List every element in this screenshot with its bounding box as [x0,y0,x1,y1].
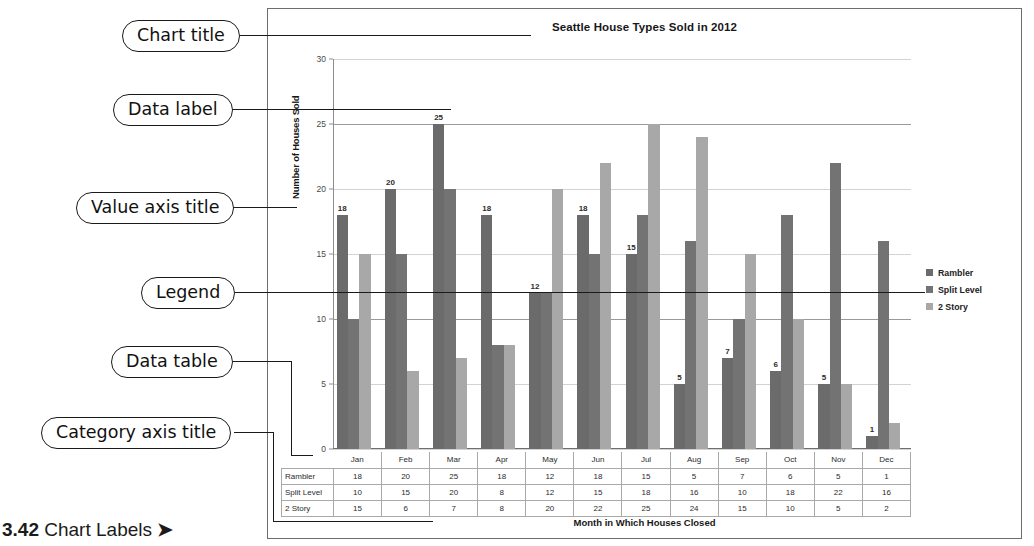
leader-category-axis-h1 [234,432,274,433]
bar [745,254,756,449]
data-table-row-header: Split Level [282,484,334,500]
callout-legend-label: Legend [156,284,220,302]
data-table: JanFebMarAprMayJunJulAugSepOctNovDecRamb… [281,452,911,517]
data-table-row-header: 2 Story [282,500,334,516]
leader-data-table-v [291,361,292,456]
data-table-column-header: Apr [478,452,526,468]
leader-chart-title [236,35,531,36]
category-axis-title: Month in Which Houses Closed [268,517,1021,528]
data-table-cell: 8 [478,500,526,516]
data-table-cell: 20 [430,484,478,500]
data-table-cell: 7 [430,500,478,516]
bar [878,241,889,449]
bar: 12 [529,293,540,449]
bar-group: 5 [815,59,863,449]
callout-category-axis-title: Category axis title [41,417,231,449]
data-table-cell: 25 [430,468,478,484]
figure-caption: 3.42 Chart Labels ➤ [2,518,172,541]
data-table-cell: 16 [670,484,718,500]
tick-label-15: 15 [317,249,326,259]
data-table-column-header: Dec [862,452,910,468]
data-table-cell: 18 [766,484,814,500]
data-label: 6 [774,360,778,369]
bar [456,358,467,449]
bar [648,124,659,449]
leader-data-label [229,109,451,110]
legend-item-2-story[interactable]: 2 Story [926,298,1016,315]
data-table-cell: 22 [814,484,862,500]
legend-item-label: 2 Story [938,302,968,312]
bar [541,293,552,449]
data-table-cell: 7 [718,468,766,484]
bar: 5 [674,384,685,449]
legend-swatch-icon [926,286,933,293]
data-table-column-header: May [526,452,574,468]
bar: 25 [433,124,444,449]
chart-legend: RamblerSplit Level2 Story [926,264,1016,315]
tick-label-5: 5 [321,379,326,389]
data-table-cell: 15 [574,484,622,500]
bar-group: 20 [381,59,429,449]
data-label: 12 [530,282,539,291]
data-table-cell: 15 [334,500,382,516]
bar [889,423,900,449]
data-table-cell: 12 [526,484,574,500]
data-label: 1 [870,425,874,434]
data-label: 18 [579,204,588,213]
data-table-cell: 5 [670,468,718,484]
leader-data-table-h1 [233,361,292,362]
callout-data-label-label: Data label [128,101,218,119]
data-table-cell: 15 [622,468,670,484]
data-table-cell: 20 [382,468,430,484]
tick-label-25: 25 [317,119,326,129]
bar-group: 18 [478,59,526,449]
data-table-column-header: Nov [814,452,862,468]
data-table-cell: 5 [814,500,862,516]
data-table-cell: 16 [862,484,910,500]
data-table-column-header: Feb [382,452,430,468]
data-table-cell: 2 [862,500,910,516]
callout-category-axis-title-label: Category axis title [56,424,216,442]
bar [504,345,515,449]
bar: 1 [866,436,877,449]
data-label: 25 [434,113,443,122]
tick-label-30: 30 [317,54,326,64]
data-table-cell: 18 [622,484,670,500]
data-table-column-header: Aug [670,452,718,468]
callout-data-table-label: Data table [126,353,218,371]
callout-data-table: Data table [111,346,233,378]
tick-label-10: 10 [317,314,326,324]
bar: 18 [337,215,348,449]
data-table-column-header: Sep [718,452,766,468]
data-table-row-header: Rambler [282,468,334,484]
bar [600,163,611,449]
callout-chart-title-label: Chart title [137,27,225,45]
value-axis-title: Number of Houses Sold [290,96,301,199]
bar: 18 [577,215,588,449]
caption-arrow-icon: ➤ [157,519,172,540]
data-table-column-header: Jan [334,452,382,468]
legend-item-split-level[interactable]: Split Level [926,281,1016,298]
data-table-cell: 10 [334,484,382,500]
data-table-row: Rambler1820251812181557651 [282,468,911,484]
legend-swatch-icon [926,303,933,310]
data-table-cell: 18 [478,468,526,484]
data-table-cell: 18 [574,468,622,484]
callout-data-label: Data label [113,94,233,126]
bar: 20 [385,189,396,449]
legend-item-label: Split Level [938,285,982,295]
data-table-cell: 10 [718,484,766,500]
data-table-column-header: Jun [574,452,622,468]
callout-value-axis-title-label: Value axis title [91,199,219,217]
data-table-row: 2 Story1567820222524151052 [282,500,911,516]
bar-group: 5 [670,59,718,449]
legend-item-rambler[interactable]: Rambler [926,264,1016,281]
data-table-column-header: Jul [622,452,670,468]
data-table-cell: 6 [382,500,430,516]
bar [793,319,804,449]
figure-caption-text: Chart Labels [44,519,152,540]
bar [396,254,407,449]
data-table-cell: 18 [334,468,382,484]
bar [552,189,563,449]
figure-page: Chart title Data label Value axis title … [0,0,1034,546]
